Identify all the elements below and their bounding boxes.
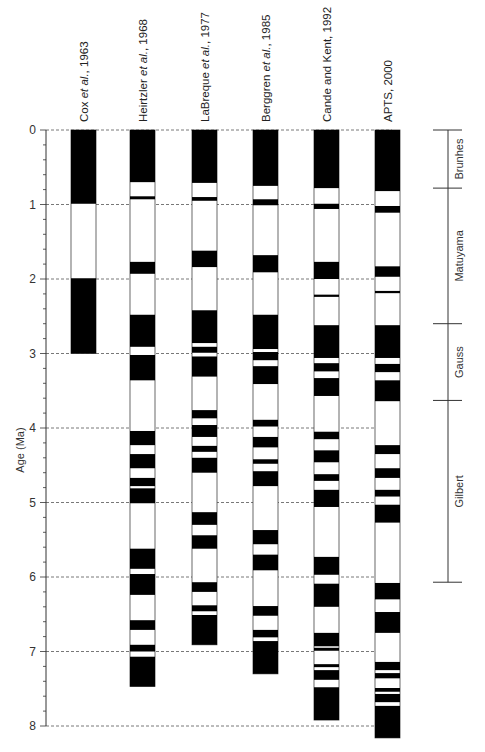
- normal-polarity-band: [314, 490, 339, 507]
- normal-polarity-band: [130, 478, 155, 486]
- normal-polarity-band: [130, 262, 155, 274]
- normal-polarity-band: [375, 291, 400, 293]
- normal-polarity-band: [192, 582, 217, 592]
- normal-polarity-band: [192, 605, 217, 611]
- normal-polarity-band: [130, 488, 155, 503]
- normal-polarity-band: [314, 450, 339, 462]
- normal-polarity-band: [192, 535, 217, 548]
- normal-polarity-band: [314, 648, 339, 651]
- normal-polarity-band: [192, 310, 217, 343]
- chron-label: Gauss: [453, 346, 465, 378]
- column-label: LaBreque et al., 1977: [199, 12, 211, 122]
- polarity-column: Berggren et al., 1985: [253, 15, 278, 674]
- normal-polarity-band: [192, 347, 217, 353]
- normal-polarity-band: [314, 584, 339, 607]
- y-tick-label: 1: [29, 198, 36, 212]
- y-tick-label: 8: [29, 719, 36, 733]
- normal-polarity-band: [314, 557, 339, 575]
- normal-polarity-band: [253, 471, 278, 486]
- normal-polarity-band: [375, 130, 400, 191]
- y-tick-label: 0: [29, 123, 36, 137]
- y-tick-label: 4: [29, 421, 36, 435]
- y-tick-label: 6: [29, 570, 36, 584]
- polarity-column: APTS, 2000: [375, 60, 400, 738]
- normal-polarity-band: [314, 363, 339, 371]
- polarity-timescale-chart: 012345678 Age (Ma) Cox et al., 1963Heirt…: [0, 0, 485, 752]
- chron-scale: BrunhesMatuyamaGaussGilbert: [433, 130, 465, 582]
- column-outline: [253, 130, 278, 674]
- normal-polarity-band: [192, 446, 217, 452]
- normal-polarity-band: [375, 445, 400, 454]
- normal-polarity-band: [314, 378, 339, 396]
- normal-polarity-band: [130, 574, 155, 595]
- normal-polarity-band: [375, 583, 400, 599]
- normal-polarity-band: [130, 431, 155, 445]
- normal-polarity-band: [253, 630, 278, 637]
- normal-polarity-band: [253, 420, 278, 427]
- normal-polarity-band: [130, 130, 155, 182]
- polarity-column: LaBreque et al., 1977: [192, 12, 217, 645]
- normal-polarity-band: [375, 612, 400, 633]
- normal-polarity-band: [375, 706, 400, 738]
- normal-polarity-band: [192, 512, 217, 525]
- normal-polarity-band: [130, 355, 155, 380]
- normal-polarity-band: [253, 199, 278, 205]
- column-label: Heirtzler et al., 1968: [137, 19, 149, 122]
- polarity-column: Heirtzler et al., 1968: [130, 19, 155, 686]
- polarity-column: Cox et al., 1963: [71, 41, 96, 353]
- normal-polarity-band: [192, 425, 217, 437]
- normal-polarity-band: [253, 130, 278, 186]
- normal-polarity-band: [71, 130, 96, 204]
- normal-polarity-band: [314, 295, 339, 297]
- normal-polarity-band: [375, 380, 400, 401]
- normal-polarity-band: [192, 130, 217, 183]
- normal-polarity-band: [130, 657, 155, 687]
- normal-polarity-band: [375, 206, 400, 213]
- y-tick-label: 3: [29, 347, 36, 361]
- polarity-column: Cande and Kent, 1992: [314, 7, 339, 720]
- normal-polarity-band: [253, 437, 278, 447]
- normal-polarity-band: [314, 204, 339, 209]
- column-label: Cox et al., 1963: [78, 41, 90, 122]
- normal-polarity-band: [314, 432, 339, 439]
- polarity-columns: Cox et al., 1963Heirtzler et al., 1968La…: [71, 7, 400, 738]
- y-tick-label: 7: [29, 645, 36, 659]
- normal-polarity-band: [130, 549, 155, 569]
- normal-polarity-band: [192, 251, 217, 267]
- normal-polarity-band: [253, 352, 278, 360]
- normal-polarity-band: [314, 262, 339, 279]
- normal-polarity-band: [192, 356, 217, 376]
- normal-polarity-band: [375, 662, 400, 670]
- chron-label: Gilbert: [453, 475, 465, 507]
- normal-polarity-band: [314, 633, 339, 646]
- normal-polarity-band: [314, 670, 339, 680]
- normal-polarity-band: [375, 266, 400, 276]
- normal-polarity-band: [253, 315, 278, 349]
- column-label: APTS, 2000: [382, 60, 394, 122]
- normal-polarity-band: [130, 454, 155, 468]
- normal-polarity-band: [192, 458, 217, 473]
- column-outline: [375, 130, 400, 738]
- normal-polarity-band: [192, 197, 217, 201]
- normal-polarity-band: [375, 688, 400, 692]
- y-tick-label: 5: [29, 496, 36, 510]
- column-label: Berggren et al., 1985: [260, 15, 272, 122]
- normal-polarity-band: [375, 694, 400, 702]
- normal-polarity-band: [253, 530, 278, 544]
- normal-polarity-band: [375, 673, 400, 678]
- normal-polarity-band: [375, 468, 400, 478]
- normal-polarity-band: [375, 325, 400, 358]
- normal-polarity-band: [130, 196, 155, 199]
- chron-label: Brunhes: [453, 138, 465, 179]
- normal-polarity-band: [375, 364, 400, 372]
- normal-polarity-band: [253, 555, 278, 571]
- column-outline: [314, 130, 339, 720]
- column-outline: [192, 130, 217, 645]
- normal-polarity-band: [314, 325, 339, 358]
- chron-label: Matuyama: [453, 229, 465, 281]
- normal-polarity-band: [314, 474, 339, 481]
- normal-polarity-band: [253, 366, 278, 384]
- normal-polarity-band: [192, 615, 217, 645]
- normal-polarity-band: [192, 410, 217, 418]
- normal-polarity-band: [314, 687, 339, 720]
